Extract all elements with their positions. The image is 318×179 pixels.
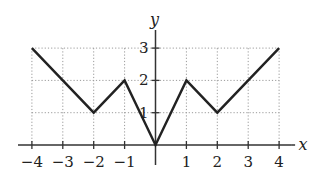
axis-labels: −4−3−2−11234123xy [21, 10, 308, 171]
x-tick-label: 2 [213, 153, 223, 171]
x-tick-label: −4 [21, 153, 43, 171]
y-tick-label: 2 [139, 71, 149, 89]
y-axis-label: y [149, 10, 160, 29]
y-tick-label: 3 [139, 39, 149, 57]
x-axis-label: x [299, 135, 308, 154]
x-tick-label: 3 [243, 153, 253, 171]
x-tick-label: −2 [83, 153, 105, 171]
x-tick-label: 4 [274, 153, 284, 171]
x-tick-label: −3 [52, 153, 74, 171]
x-tick-label: 1 [182, 153, 192, 171]
chart-canvas: −4−3−2−11234123xy [0, 0, 318, 179]
y-tick-label: 1 [139, 104, 149, 122]
x-tick-label: −1 [114, 153, 136, 171]
